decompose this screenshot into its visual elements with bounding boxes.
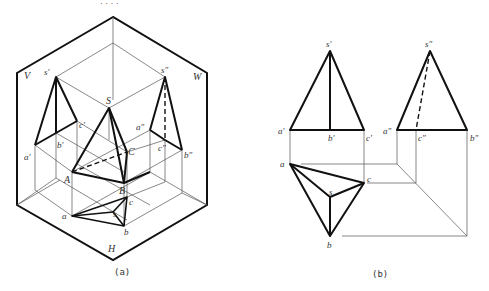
label-a-a: a <box>62 211 67 221</box>
label-b-c2: c″ <box>418 133 426 143</box>
label-a-b2: b″ <box>184 150 193 160</box>
label-plane-h: H <box>107 243 116 254</box>
label-a-B: B <box>119 185 125 196</box>
label-a-s2: s″ <box>161 65 169 75</box>
w-projection <box>150 77 182 150</box>
miter-line-45deg <box>397 164 467 236</box>
projector-lines-h <box>17 108 127 226</box>
label-b-a2: a″ <box>383 126 392 136</box>
label-a-C: C <box>128 146 135 157</box>
projector-lines-b <box>290 130 467 236</box>
label-b-b: b <box>327 240 332 250</box>
label-a-c1: c′ <box>79 120 86 130</box>
label-a-S: S <box>106 95 111 106</box>
label-b-s1: s′ <box>326 39 333 49</box>
label-b-c: c <box>367 174 371 184</box>
top-view <box>290 164 364 236</box>
label-a-a2: a″ <box>136 122 145 132</box>
label-b-s: s <box>329 187 333 197</box>
label-b-b2: b″ <box>470 133 479 143</box>
panel-b-orthographic: s′ a′ b′ c′ s″ a″ c″ b″ a c s b (b) <box>278 39 479 279</box>
label-b-s2: s″ <box>425 39 433 49</box>
label-a-b: b <box>124 227 129 237</box>
label-a-s: s <box>113 209 117 219</box>
top-marks: · · · · <box>100 0 119 8</box>
label-plane-v: V <box>24 70 32 81</box>
side-view <box>397 51 467 130</box>
label-plane-w: W <box>193 71 203 82</box>
label-b-a: a <box>280 159 285 169</box>
front-view <box>290 51 364 130</box>
projector-lines-w <box>72 130 207 226</box>
panel-a-isometric: V W H s′ c′ b′ a′ s″ a″ c″ b″ S C A B c … <box>17 17 207 277</box>
label-a-c2: c″ <box>158 143 166 153</box>
label-b-a1: a′ <box>278 126 286 136</box>
label-a-b1: b′ <box>57 140 65 150</box>
label-a-s1: s′ <box>44 67 51 77</box>
projection-diagram: · · · · <box>0 0 489 291</box>
label-b-b1: b′ <box>328 133 336 143</box>
label-a-c: c <box>129 197 133 207</box>
label-a-A: A <box>63 174 71 185</box>
caption-b: (b) <box>372 269 388 279</box>
label-b-c1: c′ <box>366 133 373 143</box>
label-a-a1: a′ <box>24 152 32 162</box>
caption-a: (a) <box>114 267 130 277</box>
